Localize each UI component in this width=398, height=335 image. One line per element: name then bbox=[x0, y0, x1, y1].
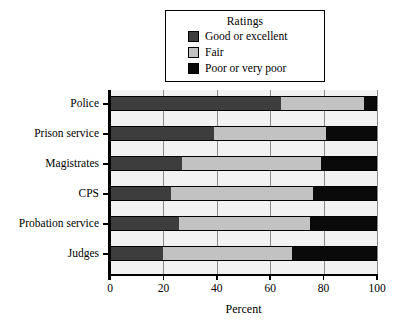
bar-row bbox=[110, 216, 377, 231]
bar-segment bbox=[110, 246, 163, 261]
legend-title: Ratings bbox=[166, 14, 324, 28]
bar-segment bbox=[110, 186, 171, 201]
y-tick bbox=[103, 163, 109, 165]
bar-segment bbox=[292, 246, 377, 261]
gridline-x-100 bbox=[377, 90, 378, 274]
x-tick-label-100: 100 bbox=[357, 282, 397, 294]
bar-row bbox=[110, 246, 377, 261]
x-tick-20 bbox=[163, 274, 165, 280]
x-tick-label-80: 80 bbox=[304, 282, 344, 294]
x-tick-40 bbox=[216, 274, 218, 280]
legend-item-fair: Fair bbox=[166, 44, 324, 60]
x-tick-label-40: 40 bbox=[197, 282, 237, 294]
legend-label-fair: Fair bbox=[205, 46, 224, 59]
bar-row bbox=[110, 126, 377, 141]
bar-segment bbox=[281, 96, 364, 111]
y-tick-label-probation-service: Probation service bbox=[0, 217, 99, 229]
y-axis-line bbox=[108, 90, 110, 280]
stacked-bar-chart: Ratings Good or excellent Fair Poor or v… bbox=[0, 0, 398, 335]
legend-label-poor-or-very-poor: Poor or very poor bbox=[205, 62, 286, 75]
bar-row bbox=[110, 96, 377, 111]
bar-segment bbox=[321, 156, 377, 171]
x-tick-100 bbox=[376, 274, 378, 280]
bar-segment bbox=[163, 246, 291, 261]
y-tick-label-magistrates: Magistrates bbox=[0, 157, 99, 169]
legend-swatch-poor-or-very-poor bbox=[188, 63, 199, 74]
bar-segment bbox=[313, 186, 377, 201]
x-tick-0 bbox=[109, 274, 111, 280]
bar-segment bbox=[364, 96, 377, 111]
bar-segment bbox=[110, 126, 214, 141]
y-tick bbox=[103, 253, 109, 255]
bar-segment bbox=[182, 156, 321, 171]
y-tick bbox=[103, 133, 109, 135]
chart-legend: Ratings Good or excellent Fair Poor or v… bbox=[165, 10, 325, 82]
x-tick-label-60: 60 bbox=[250, 282, 290, 294]
legend-swatch-good-or-excellent bbox=[188, 31, 199, 42]
bar-segment bbox=[310, 216, 377, 231]
x-tick-label-0: 0 bbox=[90, 282, 130, 294]
y-tick bbox=[103, 223, 109, 225]
legend-item-good-or-excellent: Good or excellent bbox=[166, 28, 324, 44]
y-tick bbox=[103, 103, 109, 105]
x-axis-line bbox=[109, 274, 378, 276]
legend-label-good-or-excellent: Good or excellent bbox=[205, 30, 287, 43]
y-tick-label-cps: CPS bbox=[0, 187, 99, 199]
x-tick-label-20: 20 bbox=[143, 282, 183, 294]
bar-segment bbox=[110, 216, 179, 231]
y-tick bbox=[103, 193, 109, 195]
y-tick-label-prison-service: Prison service bbox=[0, 127, 99, 139]
bar-segment bbox=[171, 186, 313, 201]
x-axis-title: Percent bbox=[110, 302, 377, 317]
bar-segment bbox=[110, 156, 182, 171]
bar-segment bbox=[179, 216, 310, 231]
bar-row bbox=[110, 186, 377, 201]
y-tick-label-police: Police bbox=[0, 97, 99, 109]
bar-segment bbox=[214, 126, 326, 141]
x-tick-80 bbox=[323, 274, 325, 280]
bar-segment bbox=[326, 126, 377, 141]
legend-item-poor-or-very-poor: Poor or very poor bbox=[166, 60, 324, 76]
x-tick-60 bbox=[269, 274, 271, 280]
legend-swatch-fair bbox=[188, 47, 199, 58]
y-tick-label-judges: Judges bbox=[0, 247, 99, 259]
bar-segment bbox=[110, 96, 281, 111]
bar-row bbox=[110, 156, 377, 171]
